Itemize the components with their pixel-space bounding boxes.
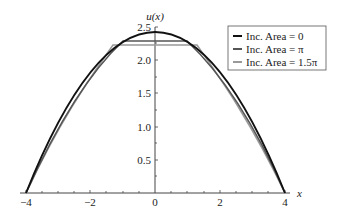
x-tick-label: 2 — [217, 196, 223, 208]
legend: Inc. Area = 0 Inc. Area = π Inc. Area = … — [228, 26, 326, 70]
chart: −4 −2 0 2 4 0.5 1.0 1.5 2.0 2.5 x u(x) I… — [0, 0, 338, 214]
y-tick-label: 1.0 — [137, 121, 151, 133]
y-tick-label: 2.5 — [137, 21, 151, 33]
y-tick-label: 1.5 — [137, 87, 151, 99]
legend-item: Inc. Area = 1.5π — [246, 56, 318, 68]
x-axis-label: x — [296, 187, 302, 199]
x-tick-label: −2 — [84, 196, 96, 208]
legend-item: Inc. Area = π — [246, 43, 304, 55]
legend-item: Inc. Area = 0 — [246, 30, 304, 42]
y-tick-label: 2.0 — [137, 54, 151, 66]
y-axis-label: u(x) — [146, 10, 164, 23]
x-tick-label: −4 — [20, 196, 32, 208]
x-tick-label: 4 — [282, 196, 288, 208]
x-tick-label: 0 — [152, 196, 158, 208]
y-tick-label: 0.5 — [137, 154, 151, 166]
